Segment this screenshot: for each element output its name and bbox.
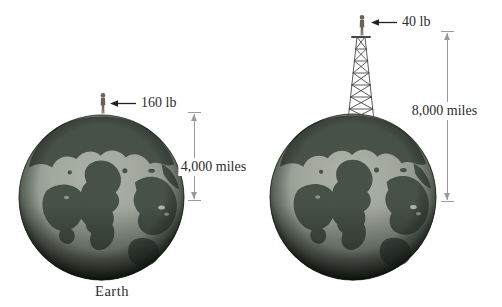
weight-label-left: 160 lb xyxy=(141,95,176,111)
arrow-left-icon-160lb xyxy=(110,99,137,108)
dimension-line xyxy=(194,114,195,199)
earth-globe-left xyxy=(18,114,185,281)
arrow-down-icon xyxy=(444,193,450,200)
arrow-up-icon xyxy=(191,114,197,121)
arrow-left-icon-40lb xyxy=(371,18,398,27)
figure-canvas: 160 lb 4,000 miles Earth xyxy=(0,0,502,307)
dimension-cap-bottom xyxy=(188,200,201,201)
dimension-cap-top xyxy=(188,112,201,113)
earth-globe-right xyxy=(269,113,437,281)
arrow-up-icon xyxy=(444,33,450,40)
dimension-8000-miles: 8,000 miles xyxy=(441,31,454,202)
weight-label-right: 40 lb xyxy=(402,14,430,30)
lattice-tower-icon xyxy=(347,37,375,121)
dimension-cap-top xyxy=(441,31,454,32)
distance-label-right: 8,000 miles xyxy=(409,102,480,120)
dimension-4000-miles: 4,000 miles xyxy=(188,112,201,201)
distance-label-left: 4,000 miles xyxy=(178,158,249,176)
dimension-cap-bottom xyxy=(441,201,454,202)
person-icon-right xyxy=(357,15,367,37)
earth-caption: Earth xyxy=(84,283,140,299)
person-icon-left xyxy=(98,93,108,115)
arrow-down-icon xyxy=(191,192,197,199)
